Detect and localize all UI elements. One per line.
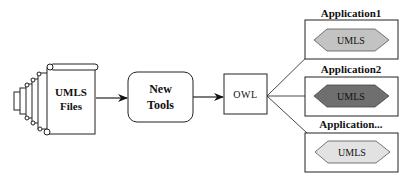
new-tools-node: New Tools [128, 72, 193, 122]
application-1-node: Application1 UMLS [305, 7, 398, 59]
application-2-title: Application2 [321, 63, 382, 75]
umls-files-label-line1: UMLS [55, 86, 87, 98]
diagram-canvas: UMLS Files New Tools OWL Application1 UM… [0, 0, 412, 182]
application-1-title: Application1 [321, 7, 382, 19]
new-tools-label-line2: Tools [147, 98, 174, 112]
application-2-hex-label: UMLS [337, 91, 365, 102]
application-3-title: Application... [319, 118, 383, 130]
owl-label: OWL [233, 89, 257, 100]
owl-node: OWL [224, 74, 267, 114]
new-tools-label-line1: New [149, 82, 172, 96]
scroll-stack-icon [14, 64, 98, 135]
application-2-node: Application2 UMLS [305, 63, 398, 116]
umls-files-label-line2: Files [60, 100, 83, 112]
application-3-node: Application... UMLS [305, 118, 398, 172]
application-1-hex-label: UMLS [337, 35, 365, 46]
umls-files-node: UMLS Files [14, 64, 98, 135]
application-3-hex-label: UMLS [338, 147, 366, 158]
